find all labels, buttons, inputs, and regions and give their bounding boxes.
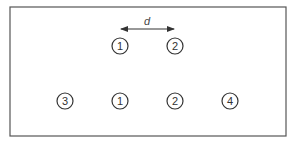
- node-label: 2: [172, 40, 178, 52]
- bottom-row-sources: 3 1 2 4: [57, 93, 238, 109]
- node-label: 3: [62, 95, 68, 107]
- node-label: 4: [227, 95, 233, 107]
- top-row-sources: 1 2: [112, 38, 183, 54]
- node-top-1: 1: [112, 38, 128, 54]
- distance-indicator: d: [121, 15, 174, 29]
- node-bottom-3: 3: [57, 93, 73, 109]
- node-label: 2: [172, 95, 178, 107]
- diagram-canvas: d 1 2 3 1 2 4: [0, 0, 294, 145]
- node-top-2: 2: [167, 38, 183, 54]
- node-bottom-1: 1: [112, 93, 128, 109]
- node-label: 1: [117, 95, 123, 107]
- node-bottom-2: 2: [167, 93, 183, 109]
- distance-label: d: [144, 15, 151, 27]
- node-bottom-4: 4: [222, 93, 238, 109]
- node-label: 1: [117, 40, 123, 52]
